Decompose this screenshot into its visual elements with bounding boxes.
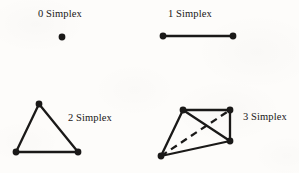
one-simplex-figure <box>160 33 237 40</box>
two-simplex-vertex-0 <box>36 101 43 108</box>
one-simplex-vertex-0 <box>160 33 167 40</box>
three-simplex-label: 3 Simplex <box>243 111 287 123</box>
three-simplex-vertex-2 <box>227 138 234 145</box>
two-simplex-vertex-2 <box>75 149 82 156</box>
zero-simplex-label: 0 Simplex <box>38 8 82 20</box>
two-simplex-edge-0 <box>16 104 39 152</box>
one-simplex-vertex-1 <box>230 33 237 40</box>
three-simplex-vertex-0 <box>180 107 187 114</box>
three-simplex-vertex-3 <box>158 153 165 160</box>
one-simplex-label: 1 Simplex <box>168 8 212 20</box>
three-simplex-figure <box>158 107 234 160</box>
simplex-figures-svg <box>0 0 299 173</box>
two-simplex-vertex-1 <box>13 149 20 156</box>
simplex-diagram-page: 0 Simplex 1 Simplex 2 Simplex 3 Simplex <box>0 0 299 173</box>
three-simplex-vertex-1 <box>227 107 234 114</box>
two-simplex-label: 2 Simplex <box>68 112 112 124</box>
zero-simplex-vertex-0 <box>59 34 66 41</box>
two-simplex-figure <box>13 101 82 156</box>
zero-simplex-figure <box>59 34 66 41</box>
